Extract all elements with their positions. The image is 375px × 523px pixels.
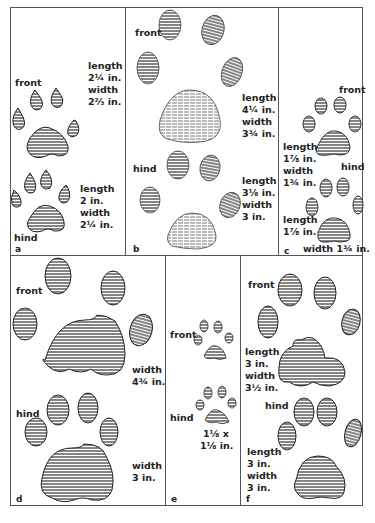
panel-f-hind-label: hind [265, 400, 289, 412]
panel-c-front-width-value: 1¾ in. [283, 177, 316, 189]
panel-a-front-width-value: 2⅔ in. [88, 96, 121, 108]
panel-e-size-line1: 1⅛ x [203, 428, 229, 440]
panel-c-hind-length-label: length [283, 214, 318, 226]
panel-b-hind-width-value: 3 in. [242, 211, 266, 223]
panel-f-letter: f [246, 494, 250, 504]
panel-d-front-width-value: 4¾ in. [132, 376, 165, 388]
panel-c-front-length-value: 1⅞ in. [283, 153, 316, 165]
panel-b-front-length-value: 4¼ in. [242, 104, 275, 116]
panel-a-hind-length-value: 2 in. [80, 195, 104, 207]
panel-c-letter: c [284, 246, 289, 256]
panel-a-front-label: front [15, 77, 42, 89]
print-a-front [13, 88, 79, 158]
panel-f-front-length-label: length [245, 346, 280, 358]
panel-d-hind-label: hind [16, 408, 40, 420]
print-a-hind [11, 170, 69, 232]
panel-c-front-width-label: width [283, 165, 313, 177]
panel-b-front-width-value: 3¾ in. [242, 128, 275, 140]
panel-f-hind-width-label: width [247, 470, 277, 482]
panel-b-hind-length-label: length [242, 175, 277, 187]
paw-prints-illustration [0, 0, 375, 523]
panel-c-front-label: front [339, 84, 366, 96]
print-e-front [194, 320, 233, 360]
panel-b-front-label: front [135, 27, 162, 39]
panel-b-hind-length-value: 3⅛ in. [242, 187, 275, 199]
panel-e-hind-label: hind [170, 412, 194, 424]
panel-f-hind-length-value: 3 in. [247, 458, 271, 470]
panel-b-front-width-label: width [242, 116, 272, 128]
print-f-hind [278, 398, 364, 499]
panel-d-front-width-label: width [132, 364, 162, 376]
panel-a-front-width-label: width [88, 84, 118, 96]
panel-f-hind-length-label: length [247, 446, 282, 458]
panel-d-hind-width-label: width [132, 460, 162, 472]
panel-b-letter: b [133, 244, 139, 254]
panel-d-hind-width-value: 3 in. [132, 472, 156, 484]
panel-a-letter: a [15, 244, 21, 254]
panel-f-front-label: front [248, 279, 275, 291]
panel-a-front-length-value: 2¼ in. [88, 72, 121, 84]
panel-d-front-label: front [16, 285, 43, 297]
panel-e-size-line2: 1⅛ in. [200, 440, 233, 452]
panel-d-letter: d [16, 494, 22, 504]
panel-a-hind-width-label: width [80, 207, 110, 219]
panel-a-front-length-label: length [88, 60, 123, 72]
panel-a-hind-label: hind [14, 232, 38, 244]
panel-a-hind-length-label: length [80, 183, 115, 195]
print-e-hind [196, 386, 236, 424]
panel-b-hind-width-label: width [242, 199, 272, 211]
panel-e-letter: e [171, 494, 177, 504]
panel-e-front-label: front [170, 329, 197, 341]
panel-f-front-length-value: 3 in. [245, 358, 269, 370]
panel-b-front-length-label: length [242, 92, 277, 104]
panel-c-front-length-label: length [283, 141, 318, 153]
panel-c-hind-width-line: width 1¾ in. [303, 243, 370, 255]
panel-b-hind-label: hind [133, 163, 157, 175]
print-d-front [13, 258, 156, 375]
panel-f-front-width-value: 3½ in. [245, 382, 278, 394]
panel-c-hind-label: hind [341, 161, 365, 173]
panel-c-hind-length-value: 1⅞ in. [283, 226, 316, 238]
panel-f-front-width-label: width [245, 370, 275, 382]
panel-f-hind-width-value: 3 in. [247, 482, 271, 494]
panel-a-hind-width-value: 2¼ in. [80, 219, 113, 231]
